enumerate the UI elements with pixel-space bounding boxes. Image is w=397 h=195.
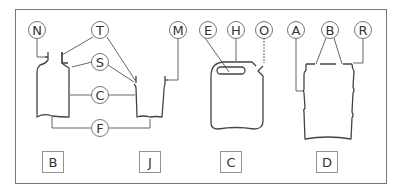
svg-text:M: M [172, 23, 183, 38]
figure-label-j: J [140, 152, 161, 173]
figure-label-d: D [317, 152, 338, 173]
callout-c: C [92, 87, 109, 104]
svg-text:E: E [204, 23, 212, 38]
callout-t: T [92, 22, 109, 39]
svg-text:B: B [49, 155, 58, 170]
callout-o: O [256, 22, 273, 39]
svg-text:S: S [96, 55, 104, 70]
callout-b: B [322, 22, 339, 39]
callout-m: M [170, 22, 187, 39]
container-parts-diagram: N T S C F M E H O A B R [0, 0, 397, 195]
callout-r: R [355, 22, 372, 39]
callout-s: S [92, 54, 109, 71]
svg-text:H: H [231, 23, 241, 38]
svg-text:B: B [326, 23, 335, 38]
svg-text:T: T [95, 23, 104, 38]
svg-text:R: R [358, 23, 367, 38]
svg-text:J: J [147, 155, 152, 170]
svg-text:C: C [226, 155, 235, 170]
callout-n: N [29, 22, 46, 39]
figure-label-b: B [43, 152, 64, 173]
svg-text:C: C [95, 88, 104, 103]
figure-label-c: C [221, 152, 242, 173]
callout-f: F [92, 120, 109, 137]
svg-text:N: N [32, 23, 42, 38]
svg-text:O: O [259, 23, 269, 38]
svg-text:D: D [322, 155, 332, 170]
callout-h: H [228, 22, 245, 39]
callout-e: E [200, 22, 217, 39]
svg-text:A: A [292, 23, 301, 38]
callout-a: A [288, 22, 305, 39]
svg-text:F: F [96, 121, 103, 136]
